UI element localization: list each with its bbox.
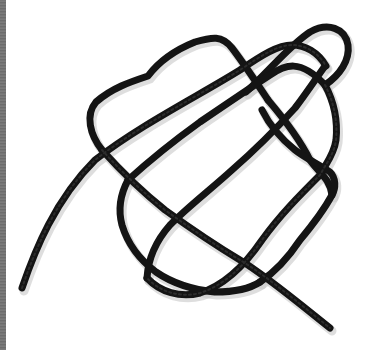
- rope-knot-illustration: [0, 0, 370, 350]
- rope-strand-left-tail: [22, 45, 326, 288]
- rope-texture-0: [22, 45, 326, 288]
- rope-shadow-6: [122, 183, 262, 295]
- rope-shadow-0: [24, 48, 328, 291]
